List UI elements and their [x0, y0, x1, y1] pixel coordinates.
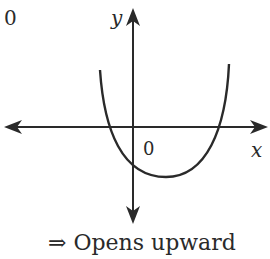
coordinate-plot	[0, 0, 270, 259]
parabola-curve	[100, 64, 229, 177]
conclusion-text: ⇒ Opens upward	[48, 232, 236, 254]
